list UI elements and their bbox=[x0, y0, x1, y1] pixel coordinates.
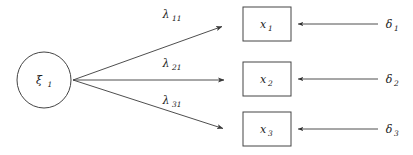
observed-label-x2-symbol: x bbox=[260, 73, 267, 86]
observed-label-x3-subscript: 3 bbox=[268, 129, 273, 138]
error-label-delta2-subscript: 2 bbox=[393, 79, 399, 88]
lambda11-label-symbol: λ bbox=[162, 8, 170, 21]
latent-label-xi1-symbol: ξ bbox=[36, 74, 43, 87]
sem-path-diagram: ξ 1 λ 11 λ 21 λ 31 x 1 x bbox=[0, 0, 413, 155]
error-term-delta2[interactable]: δ 2 bbox=[386, 73, 399, 88]
observed-label-x3-symbol: x bbox=[260, 123, 267, 136]
loading-path-lambda31[interactable]: λ 31 bbox=[73, 80, 223, 129]
loading-path-lambda21[interactable]: λ 21 bbox=[73, 57, 224, 80]
error-term-delta1[interactable]: δ 1 bbox=[386, 18, 399, 33]
lambda31-arrow bbox=[73, 80, 223, 129]
lambda21-label-symbol: λ bbox=[162, 57, 170, 70]
observed-box-x2-shape bbox=[243, 62, 291, 96]
error-term-delta3[interactable]: δ 3 bbox=[386, 123, 399, 138]
latent-label-xi1-subscript: 1 bbox=[48, 80, 53, 89]
observed-label-x1-subscript: 1 bbox=[268, 24, 273, 33]
lambda21-label-subscript: 21 bbox=[171, 63, 182, 72]
error-label-delta1-symbol: δ bbox=[386, 18, 393, 31]
lambda31-label-subscript: 31 bbox=[172, 100, 182, 109]
observed-box-x3-shape bbox=[243, 112, 291, 146]
observed-label-x1-symbol: x bbox=[260, 18, 267, 31]
observed-variable-x3[interactable]: x 3 bbox=[243, 112, 291, 146]
error-label-delta3-subscript: 3 bbox=[394, 129, 399, 138]
error-label-delta2-symbol: δ bbox=[386, 73, 393, 86]
error-label-delta3-symbol: δ bbox=[386, 123, 393, 136]
observed-variable-x1[interactable]: x 1 bbox=[243, 7, 291, 41]
observed-box-x1-shape bbox=[243, 7, 291, 41]
lambda11-label-subscript: 11 bbox=[172, 14, 182, 23]
diagram-canvas: ξ 1 λ 11 λ 21 λ 31 x 1 x bbox=[0, 0, 413, 155]
latent-ellipse-shape bbox=[17, 52, 71, 108]
error-label-delta1-subscript: 1 bbox=[394, 24, 399, 33]
lambda31-label-symbol: λ bbox=[162, 94, 170, 107]
observed-label-x2-subscript: 2 bbox=[267, 79, 273, 88]
lambda11-arrow bbox=[73, 27, 222, 81]
loading-path-lambda11[interactable]: λ 11 bbox=[73, 8, 222, 80]
latent-variable-xi1[interactable]: ξ 1 bbox=[17, 52, 71, 108]
observed-variable-x2[interactable]: x 2 bbox=[243, 62, 291, 96]
